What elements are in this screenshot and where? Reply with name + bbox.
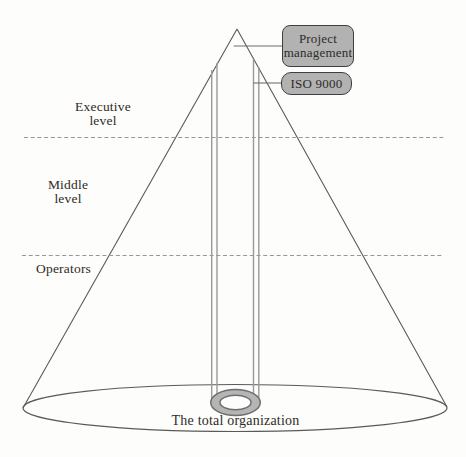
tube-ring-inner <box>220 395 251 409</box>
project-management-label: Project management <box>284 32 352 60</box>
project-management-box: Project management <box>282 25 354 67</box>
cone-left-edge <box>23 29 237 408</box>
label-operators: Operators <box>36 262 91 276</box>
iso-9000-box: ISO 9000 <box>281 72 352 95</box>
iso-9000-label: ISO 9000 <box>291 77 343 91</box>
label-middle-level: Middle level <box>38 178 98 206</box>
label-executive-level: Executive level <box>70 100 136 128</box>
cone-diagram-canvas <box>0 0 466 457</box>
organization-cone-diagram: Executive level Middle level Operators P… <box>0 0 466 457</box>
label-total-organization: The total organization <box>135 413 336 428</box>
